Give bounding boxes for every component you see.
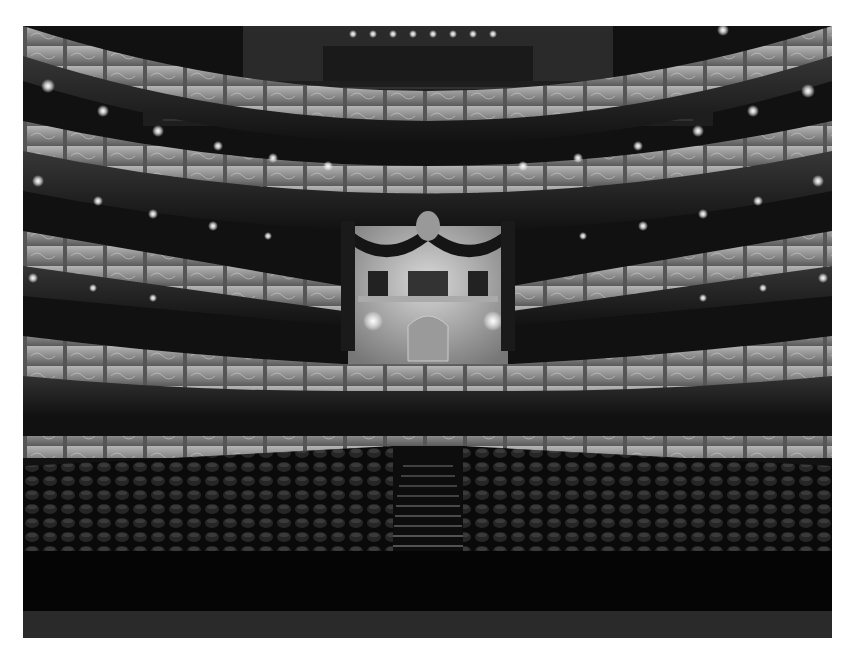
central-aisle-steps [393,446,463,556]
theater-photo [23,26,832,638]
royal-box [341,211,515,366]
orchestra-pit-wall [23,551,832,611]
stage-floor [23,611,832,638]
crest-icon [416,211,440,241]
theater-illustration [23,26,832,638]
